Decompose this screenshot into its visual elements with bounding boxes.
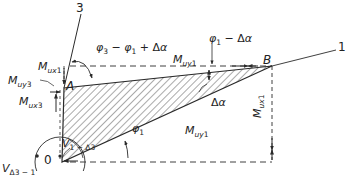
label-mux1-top: Mux1 [38,61,61,75]
leader-muy3 [40,80,54,86]
label-mux1-right: Mux1 [252,95,266,118]
point-A-label: A [66,80,74,92]
label-mux3: Mux3 [19,96,42,110]
label-v1-d3: V1 − Δ3 [62,138,95,152]
label-phi1: φ1 [132,123,144,137]
label-muy3: Muy3 [8,75,31,89]
label-muy1-bottom: Muy1 [185,125,208,139]
point-V-dot [35,154,39,158]
label-muy1-top: Muy1 [173,54,196,68]
line-1-label: 1 [338,41,346,53]
angle-phi1-minus-dalpha-label: φ1 − Δα [209,33,252,47]
line-3-label: 3 [76,2,84,14]
label-delta-alpha: Δα [211,97,226,108]
angle-phi3-phi1-dalpha-label: φ3 − φ1 + Δα [96,42,167,56]
arc-phi3-phi1-dalpha [72,61,92,78]
point-B-label: B [263,54,271,66]
point-O-label: 0 [44,154,52,166]
label-vd3-1: VΔ3 − 1 [2,163,35,177]
line-1 [272,50,336,66]
arc-phi1 [125,141,128,158]
point-O-dot [58,154,61,157]
line-3 [64,14,81,88]
